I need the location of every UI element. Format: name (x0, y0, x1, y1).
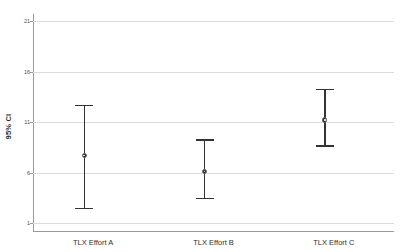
y-axis-title: 95% CI (0, 0, 18, 252)
y-tick-mark (30, 72, 33, 73)
y-tick-label: 1 (27, 220, 30, 226)
x-tick-label: TLX Effort C (313, 238, 354, 247)
mean-marker (82, 153, 87, 158)
y-axis-line (33, 14, 34, 232)
gridline (33, 21, 394, 22)
mean-marker (322, 117, 327, 122)
error-bar-lower-cap (75, 208, 93, 209)
gridline (33, 173, 394, 174)
y-tick-mark (30, 122, 33, 123)
mean-marker-center (324, 119, 326, 121)
y-tick-label: 11 (24, 119, 30, 125)
y-tick-label: 6 (27, 170, 30, 176)
gridline (33, 122, 394, 123)
y-tick-mark (30, 223, 33, 224)
y-tick-mark (30, 173, 33, 174)
x-tick-label: TLX Effort B (193, 238, 234, 247)
gridline (33, 223, 394, 224)
y-axis-title-label: 95% CI (5, 113, 14, 139)
error-bar-upper-cap (75, 105, 93, 106)
error-bar-lower-cap (196, 198, 214, 199)
mean-marker-center (204, 171, 206, 173)
x-axis-line (33, 231, 394, 232)
error-bar-lower-cap (316, 145, 334, 146)
mean-marker-center (83, 155, 85, 157)
error-bar-upper-cap (316, 89, 334, 90)
y-tick-label: 16 (24, 69, 30, 75)
y-tick-mark (30, 21, 33, 22)
error-bar-chart: 95% CI 16111621 TLX Effort ATLX Effort B… (0, 0, 403, 252)
x-tick-label: TLX Effort A (73, 238, 113, 247)
y-tick-label: 21 (24, 18, 30, 24)
error-bar-upper-cap (196, 139, 214, 140)
plot-area: 16111621 TLX Effort ATLX Effort BTLX Eff… (33, 14, 394, 232)
gridline (33, 72, 394, 73)
